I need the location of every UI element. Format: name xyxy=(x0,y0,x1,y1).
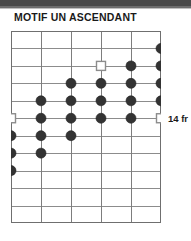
note-marker-filled-s5-f5[interactable] xyxy=(126,113,136,123)
note-marker-filled-s2-f6[interactable] xyxy=(36,131,46,141)
fretboard-border xyxy=(12,31,161,222)
page-title: MOTIF UN ASCENDANT xyxy=(14,11,137,23)
note-marker-filled-s6-f1[interactable] xyxy=(156,43,161,53)
note-marker-filled-s5-f4[interactable] xyxy=(126,96,136,106)
note-marker-filled-s1-f8[interactable] xyxy=(11,166,16,176)
note-marker-filled-s6-f4[interactable] xyxy=(156,96,161,106)
page-header-band-shadow xyxy=(0,6,191,9)
note-marker-open-s4-f2[interactable] xyxy=(96,61,105,70)
note-marker-filled-s4-f3[interactable] xyxy=(96,78,106,88)
note-marker-filled-s3-f6[interactable] xyxy=(66,131,76,141)
note-marker-filled-s1-f7[interactable] xyxy=(11,148,16,158)
note-marker-filled-s3-f3[interactable] xyxy=(66,78,76,88)
note-marker-filled-s6-f2[interactable] xyxy=(156,61,161,71)
note-marker-filled-s5-f3[interactable] xyxy=(126,78,136,88)
note-marker-filled-s2-f5[interactable] xyxy=(36,113,46,123)
note-marker-filled-s3-f5[interactable] xyxy=(66,113,76,123)
fretboard-diagram xyxy=(11,31,161,223)
note-marker-filled-s1-f6[interactable] xyxy=(11,131,16,141)
note-marker-filled-s3-f4[interactable] xyxy=(66,96,76,106)
note-marker-filled-s2-f4[interactable] xyxy=(36,96,46,106)
note-marker-open-s6-f5[interactable] xyxy=(156,114,161,123)
note-marker-filled-s5-f2[interactable] xyxy=(126,61,136,71)
note-marker-filled-s4-f5[interactable] xyxy=(96,113,106,123)
fretboard-grid xyxy=(11,31,161,223)
note-marker-filled-s6-f3[interactable] xyxy=(156,78,161,88)
note-marker-filled-s4-f4[interactable] xyxy=(96,96,106,106)
note-marker-open-s1-f5[interactable] xyxy=(11,114,16,123)
note-marker-filled-s2-f7[interactable] xyxy=(36,148,46,158)
fret-position-label: 14 fr xyxy=(168,113,188,124)
